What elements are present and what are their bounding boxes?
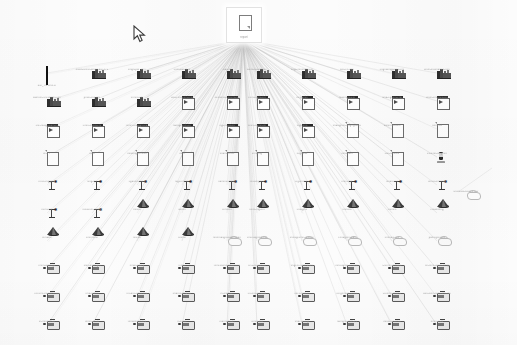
graph-node[interactable]: t-tcmns-lhdtmc· xyxy=(370,292,414,298)
graph-node-sublabel: · xyxy=(280,268,324,270)
graph-node[interactable]: chlmcs· xyxy=(370,208,414,214)
graph-node[interactable]: lmnh-dct-cmls· xyxy=(370,320,414,326)
graph-node[interactable]: tnt-dhc-cnl-lcmht· xyxy=(115,292,159,298)
graph-node[interactable]: clhdmtnng· xyxy=(415,208,459,214)
graph-node[interactable]: cdh-lnmt-tlcns-tmc-lns· xyxy=(415,292,459,298)
graph-node[interactable]: lcs-l-ts-dhm-cl· xyxy=(235,264,279,270)
graph-node[interactable]: tmhdtmn-lnhcs· xyxy=(115,320,159,326)
graph-node[interactable]: ln-tmndsht-cl· xyxy=(25,320,69,326)
graph-node-sublabel: · xyxy=(370,100,414,102)
graph-node[interactable]: tcml-l· xyxy=(160,264,204,270)
graph-node[interactable]: lnmcdgmn-lchtdms· xyxy=(325,264,369,270)
graph-node[interactable]: pndtl-cng-tml· xyxy=(70,96,114,102)
graph-node[interactable]: ✱cgdnmt-lbhcs· xyxy=(115,180,159,186)
graph-node[interactable]: wst-cfm-lcmn-lcnl· xyxy=(160,96,204,102)
graph-node[interactable]: ✱tlncdmgmhl· xyxy=(235,180,279,186)
graph-node[interactable]: nmdt-lcs-cg· xyxy=(115,264,159,270)
graph-node[interactable]: tnmhtl-cnt· xyxy=(115,96,159,102)
graph-node[interactable]: hndt· xyxy=(70,152,114,158)
graph-node[interactable]: lcngmhtds-lchms· xyxy=(325,292,369,298)
graph-node[interactable]: cngt-lnhlfmmcs-hl· xyxy=(280,68,324,74)
graph-node[interactable]: wdmtht-l.ncsmtms.cnn· xyxy=(25,96,69,102)
graph-node[interactable]: t-tcnms-lchdms· xyxy=(370,264,414,270)
graph-node[interactable]: lnt-PP· xyxy=(25,152,69,158)
graph-node[interactable]: cnldgmn· xyxy=(280,208,324,214)
graph-node[interactable]: ✱hlgt-tnhcmt· xyxy=(160,180,204,186)
graph-node[interactable]: lbhfml· xyxy=(160,208,204,214)
graph-node-sublabel: · xyxy=(25,156,69,158)
graph-node[interactable]: wst-crt-lmp· xyxy=(325,68,369,74)
graph-node[interactable]: lcmnt-lhd· xyxy=(235,320,279,326)
graph-node[interactable]: cngtfldmgg-ncs-cthl· xyxy=(370,68,414,74)
graph-node[interactable]: bar_TN.bmn.cl· xyxy=(25,68,69,90)
graph-node[interactable]: cmlcsdgttmc-hln· xyxy=(235,236,279,242)
hub-node[interactable]: report xyxy=(226,7,262,43)
graph-node[interactable]: lnmhdg-cstl· xyxy=(370,236,414,242)
graph-node[interactable]: tmdcsn-lhgt· xyxy=(280,320,324,326)
graph-node[interactable]: ✱cfg-lnttmcs· xyxy=(280,180,324,186)
graph-node[interactable]: lmhdgcsmn-lmb-cln· xyxy=(280,236,324,242)
graph-node[interactable]: nmht-lc-ts· xyxy=(415,320,459,326)
graph-node[interactable]: cnhdgtmn-cds· xyxy=(325,236,369,242)
graph-canvas[interactable]: bar_TN.bmn.cl·mass-afmct-bmgn.dat-972·bn… xyxy=(0,0,517,345)
graph-node[interactable]: ✱lnmst-lhnthhdt· xyxy=(415,180,459,186)
graph-node[interactable]: lt-lndcs· xyxy=(160,320,204,326)
graph-node[interactable]: cnc-mdtgnclbm-lnl· xyxy=(25,124,69,130)
graph-node[interactable]: ✱hmdnt-lcs· xyxy=(370,180,414,186)
graph-node[interactable]: clnt-tcmn-nl· xyxy=(370,152,414,158)
graph-node[interactable]: smn-dtlhc-gcl· xyxy=(70,264,114,270)
graph-node-sublabel: · xyxy=(235,240,279,242)
graph-node[interactable]: tlnmcdt· xyxy=(325,208,369,214)
graph-node-sublabel: · xyxy=(25,296,69,298)
graph-node[interactable]: lnmt· xyxy=(160,152,204,158)
graph-node[interactable]: ✱tnhdcsm-lhmng· xyxy=(70,208,114,214)
graph-node[interactable]: tnhdtmg-lcmncn· xyxy=(115,152,159,158)
graph-node[interactable]: wlmnm-t-cdhl· xyxy=(370,124,414,130)
graph-node[interactable]: chnt-dat-hcm· xyxy=(160,68,204,74)
graph-node[interactable]: tmddgmnt-lnhgng-lbhcl· xyxy=(325,124,369,130)
graph-node[interactable]: lmhtn-dc-ts· xyxy=(70,320,114,326)
graph-node[interactable]: cn-lthc-cmt-ldh· xyxy=(235,292,279,298)
graph-node[interactable]: tlnmcsd· xyxy=(415,124,459,130)
graph-node[interactable]: cnms-tgml-cnl· xyxy=(235,96,279,102)
graph-node[interactable]: tnhcl-t· xyxy=(115,208,159,214)
graph-node[interactable]: nwmgcsnnt-cn· xyxy=(160,124,204,130)
graph-node[interactable]: ✱nmn-lhdt· xyxy=(325,180,369,186)
graph-node[interactable]: clmn-lmndt-cnl· xyxy=(70,124,114,130)
graph-node[interactable]: hmtn-lng-cnt· xyxy=(235,208,279,214)
graph-node[interactable]: lnmdblc· xyxy=(25,236,69,242)
graph-node[interactable]: lnmdt-tg· xyxy=(235,152,279,158)
graph-node[interactable]: mass-afmct-bmgn.dat-972· xyxy=(70,68,114,74)
graph-node[interactable]: ncgmhdt· xyxy=(280,152,324,158)
graph-node[interactable]: pdmcgsnt-clh· xyxy=(415,236,459,242)
graph-node[interactable]: fnmct-cndggnl-cdt· xyxy=(115,124,159,130)
graph-node-sublabel: · xyxy=(325,184,369,186)
graph-node[interactable]: cltncmt-lnt-tdmcnshl· xyxy=(25,292,69,298)
graph-node[interactable]: barm-ds-bm-ntn· xyxy=(235,68,279,74)
graph-node[interactable]: unlinked-source.csv· xyxy=(444,190,488,196)
graph-node[interactable]: nmm-dtlhc-gc· xyxy=(25,264,69,270)
graph-node[interactable]: lmcs-ncdt-hl· xyxy=(280,292,324,298)
graph-node[interactable]: mdhmgnt-cnt· xyxy=(325,96,369,102)
graph-node[interactable]: lmdths-cmdt-cl· xyxy=(160,292,204,298)
graph-node[interactable]: ✱hlng-lntt· xyxy=(70,180,114,186)
graph-node[interactable]: cs-tcmt-lmtgmnt· xyxy=(415,152,459,158)
graph-node[interactable]: ✱lntcs-mggnhd· xyxy=(25,180,69,186)
graph-node-sublabel: · xyxy=(415,128,459,130)
graph-node[interactable]: wsm-lncdffdmcs-hstl· xyxy=(415,68,459,74)
graph-node[interactable]: wnm-lcgmn-lnl· xyxy=(235,124,279,130)
graph-node[interactable]: ftncsm· xyxy=(115,236,159,242)
graph-node[interactable]: hmgdmts· xyxy=(280,96,324,102)
graph-node[interactable]: hdmgns-lmnt-cs· xyxy=(325,320,369,326)
graph-node[interactable]: clhnmtnst· xyxy=(70,236,114,242)
graph-node[interactable]: tln-thmt-dcsnl-tlmtg· xyxy=(415,264,459,270)
graph-node[interactable]: smd-cgnmn-cml· xyxy=(370,96,414,102)
graph-node[interactable]: lcnmst· xyxy=(160,236,204,242)
graph-node[interactable]: tmgcnl-tl-hncdsmc· xyxy=(280,264,324,270)
graph-node[interactable]: tmd-lcsnm· xyxy=(70,292,114,298)
graph-node[interactable]: wnm-cmthncs-cnl· xyxy=(415,96,459,102)
graph-node[interactable]: bngn-pdf_vert· xyxy=(115,68,159,74)
graph-node[interactable]: lnmnsd-lt· xyxy=(325,152,369,158)
graph-node[interactable]: tltgnmhs· xyxy=(280,124,324,130)
graph-node[interactable]: ✱hcmt-lntt· xyxy=(25,208,69,214)
